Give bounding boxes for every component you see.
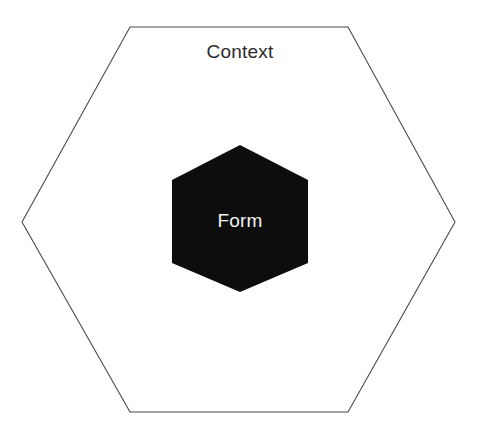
nested-hexagon-diagram: Context Form [0,0,482,447]
outer-hexagon-label: Context [207,41,274,62]
inner-hexagon-label: Form [217,210,262,231]
diagram-canvas: Context Form [0,0,482,447]
